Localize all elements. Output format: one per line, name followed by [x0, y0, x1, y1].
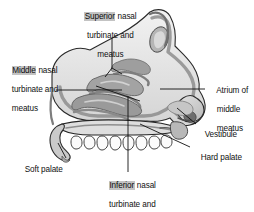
- upper-teeth-row: [71, 135, 172, 150]
- label-inferior-nasal-turbinate-and-meatus: Inferior nasal turbinate and meatus: [88, 171, 168, 212]
- label-superior-line3: meatus: [97, 50, 123, 59]
- tooth: [149, 136, 160, 149]
- label-inferior-line2: turbinate and: [109, 200, 156, 209]
- label-middle-line3: meatus: [12, 104, 38, 113]
- label-superior-rest: nasal: [115, 12, 136, 21]
- tooth: [123, 136, 134, 150]
- label-inferior-highlight: Inferior: [109, 181, 135, 190]
- label-soft-palate: Soft palate: [16, 155, 76, 184]
- tooth: [71, 136, 82, 149]
- label-middle-line2: turbinate and: [12, 85, 59, 94]
- figure-canvas: Superior nasal turbinate and meatus Midd…: [0, 0, 254, 212]
- label-superior-nasal-turbinate-and-meatus: Superior nasal turbinate and meatus: [66, 2, 146, 69]
- label-atrium-line2: middle: [217, 105, 241, 114]
- label-middle-nasal-turbinate-and-meatus: Middle nasal turbinate and meatus: [3, 56, 75, 123]
- label-hard-palate: Hard palate: [192, 143, 254, 172]
- tooth: [136, 136, 147, 150]
- tooth: [97, 136, 108, 150]
- tooth-incisor: [161, 135, 172, 148]
- tooth: [84, 136, 95, 149]
- label-middle-highlight: Middle: [12, 66, 37, 75]
- label-middle-rest: nasal: [36, 66, 57, 75]
- label-soft-palate-text: Soft palate: [25, 165, 63, 174]
- label-superior-line2: turbinate and: [87, 31, 134, 40]
- label-inferior-rest: nasal: [135, 181, 156, 190]
- label-vestibule-text: Vestibule: [205, 130, 237, 139]
- label-hard-palate-text: Hard palate: [201, 153, 242, 162]
- tooth: [110, 136, 121, 150]
- label-atrium-line1: Atrium of: [216, 86, 248, 95]
- label-superior-highlight: Superior: [84, 12, 115, 21]
- upper-lip-region: [170, 122, 187, 139]
